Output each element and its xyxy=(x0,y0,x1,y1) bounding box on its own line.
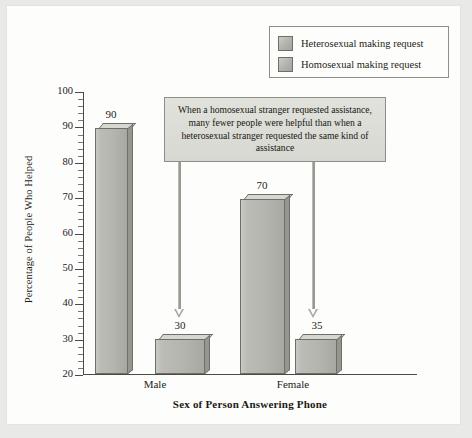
y-axis-tick-label: 100 xyxy=(33,86,73,96)
y-axis-minor-tick xyxy=(78,135,83,136)
x-axis-title: Sex of Person Answering Phone xyxy=(83,398,417,410)
legend-label-heterosexual: Heterosexual making request xyxy=(301,38,423,49)
x-axis-line xyxy=(83,374,417,375)
legend-swatch-homosexual xyxy=(278,57,293,72)
y-axis-minor-tick xyxy=(78,290,83,291)
y-axis-major-tick xyxy=(75,304,83,305)
legend-label-homosexual: Homosexual making request xyxy=(301,59,421,70)
bar-side-face xyxy=(285,195,290,374)
y-axis-tick-label: 50 xyxy=(33,263,73,273)
y-axis-major-tick xyxy=(75,340,83,341)
y-axis-minor-tick xyxy=(78,347,83,348)
legend-item-homosexual: Homosexual making request xyxy=(278,54,421,74)
y-axis-tick-label: 90 xyxy=(33,121,73,131)
y-axis-minor-tick xyxy=(78,170,83,171)
y-axis-minor-tick xyxy=(78,326,83,327)
y-axis-minor-tick xyxy=(78,191,83,192)
annotation-text: When a homosexual stranger requested ass… xyxy=(165,104,385,154)
annotation-box: When a homosexual stranger requested ass… xyxy=(164,97,386,162)
figure-panel: 1009080706050403020 Percentage of People… xyxy=(6,5,461,425)
bar-value-male-heterosexual: 90 xyxy=(81,108,141,120)
y-axis-minor-tick xyxy=(78,226,83,227)
bar-face xyxy=(155,339,205,374)
y-axis-minor-tick xyxy=(78,361,83,362)
y-axis-tick-label: 40 xyxy=(33,298,73,308)
bar-male-heterosexual xyxy=(95,128,128,374)
y-axis-tick-label: 60 xyxy=(33,228,73,238)
bar-value-female-heterosexual: 70 xyxy=(232,179,292,191)
annotation-arrow-head-right xyxy=(308,309,318,318)
bar-face xyxy=(95,128,128,374)
y-axis-tick-label: 80 xyxy=(33,157,73,167)
y-axis-tick-label: 20 xyxy=(33,369,73,379)
annotation-arrow-head-left xyxy=(174,309,184,318)
y-axis-major-tick xyxy=(75,127,83,128)
y-axis-major-tick xyxy=(75,92,83,93)
y-axis-minor-tick xyxy=(78,212,83,213)
y-axis-minor-tick xyxy=(78,333,83,334)
bar-female-heterosexual xyxy=(240,199,285,374)
y-axis-minor-tick xyxy=(78,276,83,277)
x-category-female: Female xyxy=(233,378,353,390)
y-axis-minor-tick xyxy=(78,205,83,206)
y-axis-minor-tick xyxy=(78,120,83,121)
y-axis-minor-tick xyxy=(78,184,83,185)
bar-value-male-homosexual: 30 xyxy=(150,319,210,331)
annotation-arrow-shaft-right xyxy=(312,162,315,310)
y-axis-line xyxy=(83,92,84,375)
y-axis-title: Percentage of People Who Helped xyxy=(23,130,34,330)
bar-value-female-homosexual: 35 xyxy=(287,319,347,331)
y-axis-major-tick xyxy=(75,198,83,199)
y-axis-minor-tick xyxy=(78,241,83,242)
y-axis-major-tick xyxy=(75,375,83,376)
y-axis-minor-tick xyxy=(78,99,83,100)
y-axis-minor-tick xyxy=(78,368,83,369)
x-category-male: Male xyxy=(95,378,215,390)
bar-side-face xyxy=(337,335,342,374)
y-axis-tick-label: 70 xyxy=(33,192,73,202)
y-axis-major-tick xyxy=(75,234,83,235)
plot-area: 1009080706050403020 Percentage of People… xyxy=(7,6,460,424)
bar-male-homosexual xyxy=(155,339,205,374)
y-axis-minor-tick xyxy=(78,318,83,319)
y-axis-minor-tick xyxy=(78,354,83,355)
y-axis-minor-tick xyxy=(78,297,83,298)
y-axis-minor-tick xyxy=(78,248,83,249)
y-axis-minor-tick xyxy=(78,255,83,256)
bar-side-face xyxy=(128,124,133,374)
y-axis-minor-tick xyxy=(78,149,83,150)
bar-side-face xyxy=(205,335,210,374)
bar-face xyxy=(240,199,285,374)
bar-female-homosexual xyxy=(295,339,337,374)
y-axis-major-tick xyxy=(75,163,83,164)
y-axis-minor-tick xyxy=(78,142,83,143)
y-axis-minor-tick xyxy=(78,177,83,178)
y-axis-major-tick xyxy=(75,269,83,270)
legend-swatch-heterosexual xyxy=(278,36,293,51)
annotation-arrow-shaft-left xyxy=(178,162,181,310)
y-axis-minor-tick xyxy=(78,283,83,284)
y-axis-minor-tick xyxy=(78,156,83,157)
y-axis-tick-label: 30 xyxy=(33,334,73,344)
y-axis-minor-tick xyxy=(78,262,83,263)
y-axis-minor-tick xyxy=(78,219,83,220)
legend: Heterosexual making request Homosexual m… xyxy=(269,26,449,78)
y-axis-minor-tick xyxy=(78,311,83,312)
bar-face xyxy=(295,339,337,374)
legend-item-heterosexual: Heterosexual making request xyxy=(278,33,423,53)
